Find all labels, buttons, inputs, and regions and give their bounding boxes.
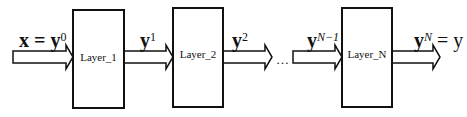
signal-yN-1-base: y xyxy=(307,29,317,51)
signal-yN-1-sup: N−1 xyxy=(317,30,339,44)
signal-y2: y2 xyxy=(232,30,248,50)
signal-output-suffix: = y xyxy=(432,29,463,51)
signal-output: yN = y xyxy=(414,30,463,50)
diagram-canvas xyxy=(0,0,467,117)
signal-output-base: y xyxy=(414,29,424,51)
layer-1-label: Layer_1 xyxy=(73,51,124,63)
signal-input-base: x = y xyxy=(19,29,60,51)
layer-n-label: Layer_N xyxy=(342,48,392,60)
signal-input: x = y0 xyxy=(19,30,66,50)
signal-y2-base: y xyxy=(232,29,242,51)
ellipsis: … xyxy=(276,52,289,68)
signal-y1-base: y xyxy=(140,29,150,51)
signal-y1-sup: 1 xyxy=(150,30,156,44)
layer-2-label: Layer_2 xyxy=(173,48,223,60)
signal-yN-1: yN−1 xyxy=(307,30,339,50)
signal-y2-sup: 2 xyxy=(242,30,248,44)
signal-output-sup: N xyxy=(424,30,432,44)
signal-y1: y1 xyxy=(140,30,156,50)
signal-input-sup: 0 xyxy=(60,30,66,44)
